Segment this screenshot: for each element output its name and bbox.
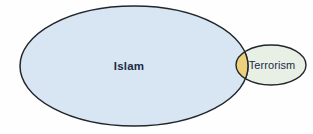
set-label-islam: Islam bbox=[114, 60, 144, 72]
set-label-terrorism: Terrorism bbox=[249, 59, 296, 71]
venn-diagram-canvas: Islam Terrorism bbox=[0, 0, 313, 134]
venn-diagram-svg: Islam Terrorism bbox=[0, 0, 313, 134]
